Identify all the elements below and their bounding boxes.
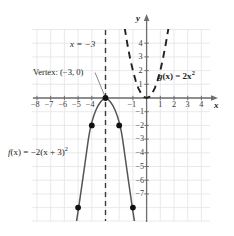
- function-f-label-exponent: 2: [65, 145, 68, 152]
- point-right-inner: [116, 123, 122, 129]
- point-vertex: [103, 95, 109, 101]
- coordinate-plane-svg: [0, 0, 234, 236]
- function-f-label: f(x) = −2(x + 3)2: [8, 148, 68, 157]
- y-tick-label: −5: [136, 163, 145, 171]
- function-g-label-exponent: 2: [192, 69, 195, 76]
- function-g-label: g(x) = 2x2: [158, 72, 195, 81]
- y-tick-label: 3: [139, 53, 143, 61]
- graph-figure: −8 −7 −6 −5 −4 −1 1 2 3 4 4 3 2 1 −1 −2 …: [0, 0, 234, 236]
- x-tick-label: −6: [58, 101, 67, 109]
- axis-of-symmetry-label: x = −3: [70, 40, 95, 49]
- y-tick-label: 2: [139, 67, 143, 75]
- x-tick-label: −8: [31, 101, 40, 109]
- y-tick-label: 4: [139, 40, 143, 48]
- x-tick-label: −4: [86, 101, 95, 109]
- y-tick-label: −7: [136, 190, 145, 198]
- y-tick-label: −6: [136, 177, 145, 185]
- function-g-label-body: (x) = 2x: [163, 71, 192, 81]
- y-tick-label: −4: [136, 149, 145, 157]
- point-left-outer: [75, 205, 81, 211]
- x-tick-label: 2: [172, 101, 176, 109]
- x-axis-label: x: [214, 101, 219, 110]
- x-tick-label: −5: [72, 101, 81, 109]
- y-tick-label: 1: [139, 81, 143, 89]
- function-f-label-body: (x) = −2(x + 3): [11, 147, 65, 157]
- y-tick-label: −2: [136, 122, 145, 130]
- y-tick-label: −1: [136, 108, 145, 116]
- y-tick-label: −3: [136, 135, 145, 143]
- axis-of-symmetry-label-text: x = −3: [70, 39, 95, 49]
- y-axis-label: y: [136, 14, 140, 23]
- x-tick-label: 3: [186, 101, 190, 109]
- x-tick-label: −7: [45, 101, 54, 109]
- vertex-annotation-label: Vertex: (−3, 0): [33, 68, 83, 77]
- x-tick-label: 4: [199, 101, 203, 109]
- y-axis: [144, 14, 150, 222]
- x-tick-label: 1: [158, 101, 162, 109]
- point-left-inner: [89, 123, 95, 129]
- point-right-outer: [130, 205, 136, 211]
